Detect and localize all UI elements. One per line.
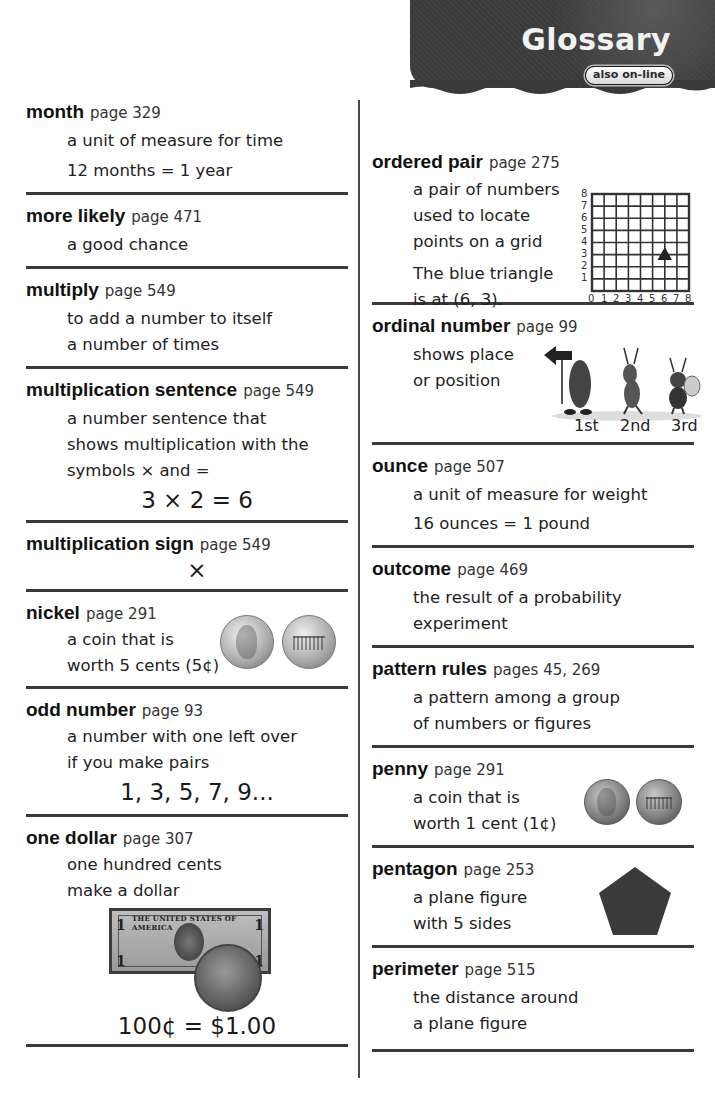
pentagon-shape-image (597, 865, 673, 937)
page-ref: page 253 (464, 861, 535, 879)
x-axis-label: 3 (625, 293, 631, 304)
term: multiplication sign (26, 533, 194, 554)
entry-odd-number: odd numberpage 93 a number with one left… (26, 698, 348, 817)
term: ordered pair (372, 151, 483, 172)
also-online-badge[interactable]: also on-line (585, 66, 673, 85)
term: more likely (26, 205, 125, 226)
y-axis-label: 4 (581, 236, 587, 247)
entry-one-dollar: one dollarpage 307 one hundred cents mak… (26, 826, 348, 1044)
definition-line: a number sentence that (67, 406, 348, 432)
divider (372, 442, 694, 445)
nickel-front-image (220, 615, 274, 669)
term: month (26, 101, 84, 122)
definition: one hundred cents make a dollar (67, 852, 348, 904)
entry-more-likely: more likelypage 471 a good chance (26, 204, 348, 269)
x-axis-label: 0 (588, 293, 594, 304)
term: multiply (26, 279, 99, 300)
definition-line: a plane figure (413, 1011, 694, 1037)
penny-back-image (636, 779, 682, 825)
page-ref: page 515 (465, 961, 536, 979)
x-axis-label: 4 (637, 293, 643, 304)
odd-number-sequence: 1, 3, 5, 7, 9... (46, 776, 348, 808)
dollar-equation: 100¢ = $1.00 (46, 1010, 348, 1042)
page-ref: page 469 (457, 561, 528, 579)
term: outcome (372, 558, 451, 579)
ordinal-label-3rd: 3rd (671, 416, 698, 435)
definition-line: 12 months = 1 year (67, 158, 348, 184)
glossary-right-column: ordered pairpage 275 a pair of numbers u… (372, 150, 694, 1061)
example-equation: 3 × 2 = 6 (46, 484, 348, 516)
page-ref: page 549 (243, 382, 314, 400)
triangle-point-marker (658, 247, 673, 260)
entry-penny: pennypage 291 a coin that is worth 1 cen… (372, 757, 694, 848)
definition-line: a unit of measure for time (67, 128, 348, 154)
definition-line: a number of times (67, 332, 348, 358)
definition: a good chance (67, 232, 348, 258)
definition-line: shows multiplication with the (67, 432, 348, 458)
entry-ounce: ouncepage 507 a unit of measure for weig… (372, 454, 694, 548)
term: penny (372, 758, 428, 779)
y-axis-label: 7 (581, 200, 587, 211)
definition: a number with one left over if you make … (67, 724, 348, 776)
divider (26, 814, 348, 817)
entry-perimeter: perimeterpage 515 the distance around a … (372, 957, 694, 1052)
definition: the distance around a plane figure (413, 985, 694, 1037)
definition-line: experiment (413, 611, 694, 637)
term: pentagon (372, 858, 458, 879)
entry-multiply: multiplypage 549 to add a number to itse… (26, 278, 348, 369)
dollar-coin-image (194, 944, 262, 1012)
definition-line: of numbers or figures (413, 711, 694, 737)
entry-nickel: nickelpage 291 a coin that is worth 5 ce… (26, 601, 348, 689)
term: multiplication sentence (26, 379, 237, 400)
column-divider (358, 100, 360, 1078)
page-ref: page 549 (105, 282, 176, 300)
definition: the result of a probability experiment (413, 585, 694, 637)
page-ref: page 471 (131, 208, 202, 226)
x-axis-label: 1 (601, 293, 607, 304)
entry-month: monthpage 329 a unit of measure for time… (26, 100, 348, 195)
y-axis-label: 3 (581, 248, 587, 259)
definition-line: a number with one left over (67, 724, 348, 750)
divider (26, 192, 348, 195)
x-axis-label: 6 (661, 293, 667, 304)
y-axis-label: 8 (581, 188, 587, 199)
entry-pentagon: pentagonpage 253 a plane figure with 5 s… (372, 857, 694, 948)
y-axis-label: 2 (581, 260, 587, 271)
x-axis-label: 5 (649, 293, 655, 304)
divider (372, 945, 694, 948)
definition-line: a good chance (67, 232, 348, 258)
page-ref: page 307 (123, 830, 194, 848)
term: ordinal number (372, 315, 510, 336)
page-title: Glossary (521, 22, 671, 57)
entry-multiplication-sign: multiplication signpage 549 × (26, 532, 348, 592)
definition: a pattern among a group of numbers or fi… (413, 685, 694, 737)
definition: a number sentence that shows multiplicat… (67, 406, 348, 484)
term: pattern rules (372, 658, 487, 679)
entry-ordered-pair: ordered pairpage 275 a pair of numbers u… (372, 150, 694, 300)
divider (372, 845, 694, 848)
divider (26, 686, 348, 689)
ordinal-label-1st: 1st (574, 416, 599, 435)
divider (372, 645, 694, 648)
page-ref: page 291 (434, 761, 505, 779)
term: odd number (26, 699, 136, 720)
page-ref: page 99 (516, 318, 577, 336)
definition-line: the result of a probability (413, 585, 694, 611)
y-axis-label: 6 (581, 212, 587, 223)
term: nickel (26, 602, 80, 623)
definition-line: a pattern among a group (413, 685, 694, 711)
page-ref: page 291 (86, 605, 157, 623)
definition-line: the distance around (413, 985, 694, 1011)
divider (26, 266, 348, 269)
y-axis-label: 1 (581, 272, 587, 283)
definition-line: a unit of measure for weight (413, 482, 694, 508)
grid-lines (577, 190, 697, 310)
definition-line: one hundred cents (67, 852, 348, 878)
x-axis-label: 2 (613, 293, 619, 304)
page-ref: pages 45, 269 (493, 661, 600, 679)
penny-front-image (584, 779, 630, 825)
page-ref: page 507 (434, 458, 505, 476)
entry-pattern-rules: pattern rulespages 45, 269 a pattern amo… (372, 657, 694, 748)
term: ounce (372, 455, 428, 476)
divider (26, 1044, 348, 1047)
